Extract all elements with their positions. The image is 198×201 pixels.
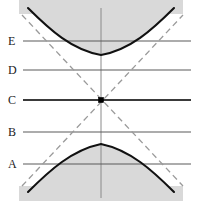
- level-label-C: C: [8, 94, 16, 106]
- hyperbola-figure: E D C B A: [0, 0, 198, 201]
- level-label-B: B: [8, 126, 16, 138]
- level-label-D: D: [8, 64, 17, 76]
- level-label-A: A: [8, 158, 17, 170]
- center-point-marker: [99, 98, 104, 103]
- figure-canvas: [0, 0, 198, 201]
- level-label-E: E: [8, 35, 16, 47]
